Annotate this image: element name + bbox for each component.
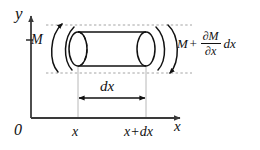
x-tick-label-right: x+dx — [124, 125, 153, 139]
torque-arc-right-outer — [168, 25, 177, 73]
cylinder-element — [69, 32, 155, 66]
origin-label: 0 — [14, 122, 22, 138]
fraction-numerator: ∂M — [201, 30, 221, 43]
torque-arcs-right — [156, 25, 177, 73]
moment-right-differential: dx — [224, 37, 236, 50]
partial-derivative-fraction: ∂M ∂x — [201, 30, 221, 57]
x-tick-label-left: x — [72, 125, 78, 139]
y-axis-label: y — [15, 5, 23, 22]
moment-right-plus-sign: + — [189, 37, 198, 50]
torque-arc-left-outer — [52, 24, 62, 72]
moment-left-label: M — [31, 33, 43, 47]
moment-element-diagram: y M 0 x x+dx x dx M + ∂M ∂x dx — [0, 0, 260, 150]
dx-length-label: dx — [100, 79, 114, 94]
fraction-denominator: ∂x — [203, 44, 218, 57]
moment-right-base: M — [177, 37, 188, 50]
torque-arc-right-inner — [156, 27, 165, 70]
moment-right-expression: M + ∂M ∂x dx — [177, 30, 236, 57]
x-axis-label: x — [174, 119, 181, 134]
cylinder-body-fill — [78, 32, 146, 66]
